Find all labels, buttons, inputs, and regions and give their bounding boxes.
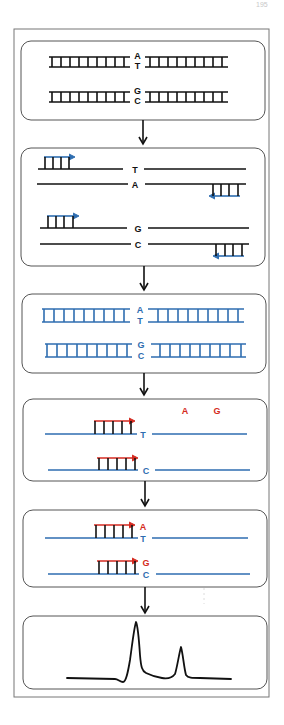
labeled-nucleotide: G: [213, 406, 220, 416]
template-base: C: [143, 466, 150, 476]
base-label: C: [135, 240, 142, 250]
extended-primer: [94, 522, 135, 538]
extension-primer: [94, 418, 135, 434]
panel-electropherogram: [23, 616, 267, 689]
base-label: G: [137, 340, 144, 350]
panel-pcr-products: A T G C: [22, 294, 266, 373]
base-label: C: [138, 351, 145, 361]
template-base: C: [143, 570, 150, 580]
extended-primer: [97, 558, 138, 574]
base-label: A: [137, 305, 144, 315]
panel-pcr-primers: T A G C: [21, 148, 265, 266]
forward-primer: [44, 154, 75, 169]
dna-ladder-left: [49, 57, 130, 67]
base-label: A: [132, 180, 139, 190]
incorporated-base: G: [142, 558, 149, 568]
labeled-nucleotide: A: [182, 406, 189, 416]
base-label: G: [134, 86, 141, 96]
dna-ladder-right: [145, 57, 228, 67]
forward-primer: [47, 213, 79, 228]
outer-frame: [14, 29, 269, 697]
base-label: T: [137, 316, 143, 326]
panel-extension-primers: A G T C: [23, 399, 267, 481]
reverse-primer: [213, 244, 244, 259]
base-label: G: [134, 224, 141, 234]
electropherogram-trace: [67, 622, 231, 682]
reverse-primer: [209, 184, 240, 199]
snp-genotyping-workflow-diagram: A T G C T A: [0, 0, 284, 725]
panel-genomic-dna: A T G C: [21, 41, 265, 120]
panel-single-base-extension: A T G C: [23, 510, 267, 587]
base-label: C: [134, 96, 141, 106]
extension-primer: [97, 455, 138, 470]
template-base: T: [140, 430, 146, 440]
template-base: T: [140, 534, 146, 544]
base-label: A: [134, 51, 141, 61]
base-label: T: [135, 61, 141, 71]
incorporated-base: A: [140, 522, 147, 532]
base-label: T: [132, 165, 138, 175]
